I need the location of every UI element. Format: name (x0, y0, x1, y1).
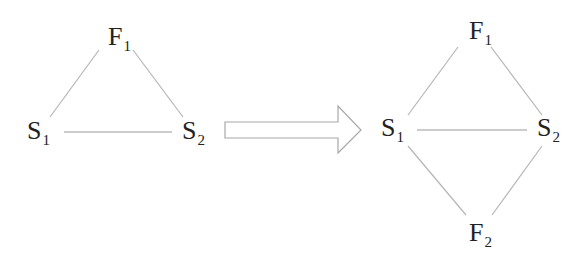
edge-right-s2-f2 (492, 146, 542, 215)
node-subscript: 2 (552, 129, 560, 145)
edge-left-f1-s1 (50, 50, 99, 117)
edges-layer (0, 0, 587, 260)
node-subscript: 1 (484, 32, 492, 48)
node-right-f2: F2 (469, 220, 492, 250)
node-right-s2: S2 (537, 115, 560, 145)
edge-right-s1-f2 (408, 146, 466, 215)
edge-right-f1-s2 (491, 47, 542, 115)
node-letter: S (182, 116, 196, 145)
node-letter: F (469, 16, 483, 45)
node-left-s2: S2 (182, 118, 205, 148)
edge-right-f1-s1 (408, 47, 458, 115)
node-subscript: 1 (42, 132, 50, 148)
node-letter: F (469, 218, 483, 247)
node-subscript: 2 (484, 234, 492, 250)
arrow-right-icon (225, 106, 361, 153)
node-letter: S (381, 113, 395, 142)
node-subscript: 1 (396, 129, 404, 145)
edge-left-f1-s2 (133, 50, 183, 117)
node-letter: S (27, 116, 41, 145)
node-left-s1: S1 (27, 118, 50, 148)
node-subscript: 1 (123, 38, 131, 54)
node-right-f1: F1 (469, 18, 492, 48)
node-right-s1: S1 (381, 115, 404, 145)
node-letter: F (108, 22, 122, 51)
node-subscript: 2 (197, 132, 205, 148)
node-left-f1: F1 (108, 24, 131, 54)
node-letter: S (537, 113, 551, 142)
diagram: F1 S1 S2 F1 S1 S2 F2 (0, 0, 587, 260)
